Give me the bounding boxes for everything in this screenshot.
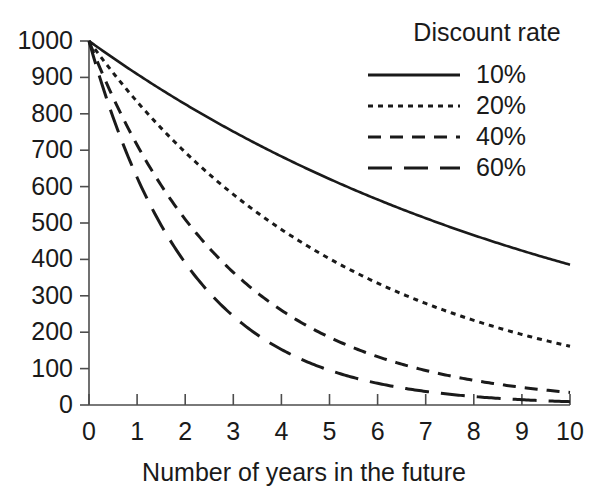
y-axis-tick-label: 800 [0, 101, 73, 126]
legend-label: 40% [476, 124, 526, 149]
y-axis-tick-label: 200 [0, 319, 73, 344]
legend-entry: 40% [368, 121, 592, 152]
y-axis-tick-label: 700 [0, 137, 73, 162]
legend-label: 60% [476, 155, 526, 180]
y-axis-tick-label: 500 [0, 210, 73, 235]
legend-entry: 60% [368, 152, 592, 183]
y-axis-tick-label: 100 [0, 356, 73, 381]
y-axis-tick-label: 400 [0, 246, 73, 271]
y-axis-tick-label: 900 [0, 64, 73, 89]
y-axis-tick-label: 1000 [0, 28, 73, 53]
legend-swatch-40pct [368, 130, 460, 144]
y-axis-ticks [80, 41, 89, 405]
y-axis-tick-label: 300 [0, 283, 73, 308]
legend-entries: 10%20%40%60% [368, 59, 592, 183]
x-axis-title: Number of years in the future [0, 458, 608, 487]
x-axis-tick-label: 10 [540, 419, 600, 444]
legend-label: 10% [476, 62, 526, 87]
legend-label: 20% [476, 93, 526, 118]
y-axis-tick-label: 0 [0, 392, 73, 417]
legend-swatch-20pct [368, 99, 460, 113]
y-axis-tick-label: 600 [0, 174, 73, 199]
legend-swatch-10pct [368, 68, 460, 82]
discount-rate-chart: 01002003004005006007008009001000 0123456… [0, 0, 608, 501]
legend-entry: 10% [368, 59, 592, 90]
legend-title: Discount rate [368, 18, 592, 47]
legend-entry: 20% [368, 90, 592, 121]
legend: Discount rate 10%20%40%60% [368, 18, 592, 183]
legend-swatch-60pct [368, 161, 460, 175]
